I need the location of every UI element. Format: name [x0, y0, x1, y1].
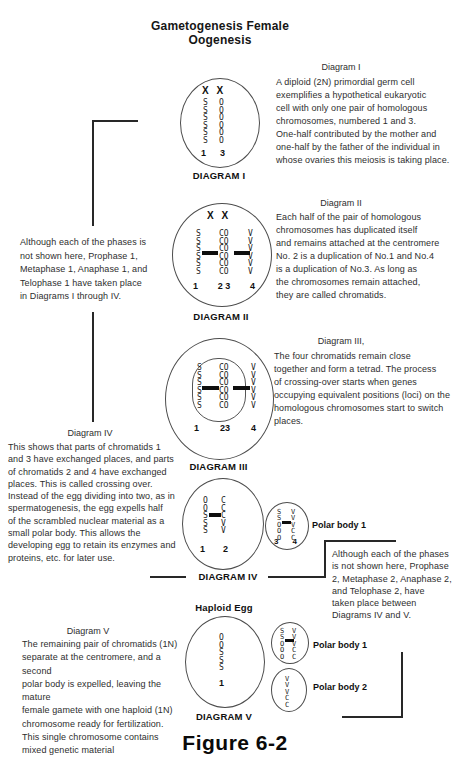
diagram3-chromatid-4-strand: VVVVVV — [251, 364, 256, 409]
centromere-bar — [209, 513, 221, 517]
diagram3-chromatid-numbers: 1 23 4 — [194, 423, 256, 433]
diagram1-chromosome-3-strand: OOOOOO — [219, 99, 224, 144]
diagram2-centromere-x-marks: X X — [207, 210, 228, 221]
diagram1-centromere-x-marks: X X — [202, 85, 223, 96]
left-bracket-vertical-line-top — [92, 120, 94, 226]
diagram5-polar1-strand-left: SSOOO — [280, 628, 284, 660]
diagram1-chromosome-1-strand: SSSSSS — [203, 99, 208, 144]
diagram4-label-dash-left — [150, 576, 186, 578]
chromatid-number: 4 — [250, 281, 255, 291]
diagram2-heading: Diagram II — [276, 198, 406, 208]
diagram5-polar-body-1-membrane — [271, 622, 309, 664]
centromere-bar — [234, 251, 250, 255]
left-bracket-vertical-line-bottom — [92, 312, 94, 422]
bottom-bracket-horizontal-line — [342, 716, 403, 718]
diagram3-chromatid-2-3-strands: COCOCOCOCOCO — [219, 364, 229, 409]
centromere-bar — [202, 251, 218, 255]
chromatid-number: 3 — [274, 537, 278, 546]
diagram5-heading: Diagram V — [28, 626, 148, 636]
diagram4-description: This shows that parts of chromatids 1 an… — [8, 441, 182, 564]
diagram5-polar2-strand: VVVCC — [285, 676, 289, 708]
diagram5-chromosome-number: 1 — [219, 678, 224, 688]
bottom-bracket-vertical-line — [401, 652, 403, 718]
diagram5-chromosome-strand: OOSSS — [219, 634, 224, 672]
diagram1-heading: Diagram I — [276, 62, 406, 72]
chromatid-number: 1 — [200, 544, 205, 554]
diagram4-heading: Diagram IV — [30, 428, 150, 438]
chromatid-number: 1 — [193, 281, 198, 291]
page-title: Gametogenesis Female Oogenesis — [120, 19, 320, 47]
chromatid-number: 4 — [293, 537, 297, 546]
chromatid-number: 23 — [220, 423, 230, 433]
diagram4-label: DIAGRAM IV — [190, 571, 266, 582]
diagram3-heading: Diagram III, — [276, 336, 406, 346]
chromatid-number: 1 — [194, 423, 199, 433]
figure-caption: Figure 6-2 — [130, 731, 340, 755]
diagram5-polar1-strand-right: VVVCC — [292, 628, 296, 660]
diagram4-egg-numbers: 1 2 — [200, 544, 228, 554]
centromere-bar — [282, 521, 291, 524]
textbook-figure-page: Gametogenesis Female Oogenesis X X SSSSS… — [0, 0, 472, 776]
left-phase-note: Although each of the phases is not shown… — [20, 236, 166, 304]
page-title-line1: Gametogenesis Female — [120, 19, 320, 33]
chromosome-number: 1 — [201, 148, 206, 158]
diagram2-chromatid-numbers: 1 2 3 4 — [193, 281, 255, 291]
diagram2-chromatid-1-strand: SSSSSS — [196, 230, 201, 275]
diagram4-label-dash-right — [268, 576, 326, 578]
diagram1-chromosome-numbers: 1 3 — [201, 148, 225, 158]
diagram2-chromatid-2-3-strands: COCOCOCOCOCO — [219, 230, 229, 275]
centromere-bar — [202, 386, 219, 390]
right-bracket-vertical-line — [324, 540, 326, 578]
chromatid-number: 2 3 — [218, 281, 231, 291]
diagram4-polar-body-1-label: Polar body 1 — [312, 520, 366, 530]
diagram2-label: DIAGRAM II — [172, 311, 270, 322]
diagram1-label: DIAGRAM I — [180, 170, 258, 181]
diagram5-label: DIAGRAM V — [185, 711, 263, 722]
centromere-bar — [285, 639, 294, 642]
diagram5-polar-body-1-label: Polar body 1 — [313, 640, 367, 650]
right-phase-note: Although each of the phases is not shown… — [332, 548, 468, 622]
diagram5-egg-membrane — [185, 616, 265, 708]
chromosome-number: 3 — [220, 148, 225, 158]
diagram4-chromatid-2-strand: CCCVV — [221, 497, 226, 535]
chromatid-number: 2 — [223, 544, 228, 554]
page-title-line2: Oogenesis — [120, 33, 320, 47]
left-bracket-horizontal-line — [92, 120, 138, 122]
diagram3-description: The four chromatids remain close togethe… — [274, 350, 470, 428]
diagram4-chromatid-1-strand: OOSSS — [203, 497, 208, 535]
diagram4-polar-numbers: 3 4 — [274, 537, 297, 546]
diagram2-description: Each half of the pair of homologous chro… — [276, 211, 468, 302]
diagram5-polar-body-2-label: Polar body 2 — [313, 682, 367, 692]
centromere-bar — [233, 386, 250, 390]
right-bracket-horizontal-line — [324, 540, 396, 542]
diagram1-description: A diploid (2N) primordial germ cell exem… — [276, 76, 468, 167]
haploid-egg-title: Haploid Egg — [185, 602, 263, 613]
chromatid-number: 4 — [251, 423, 256, 433]
